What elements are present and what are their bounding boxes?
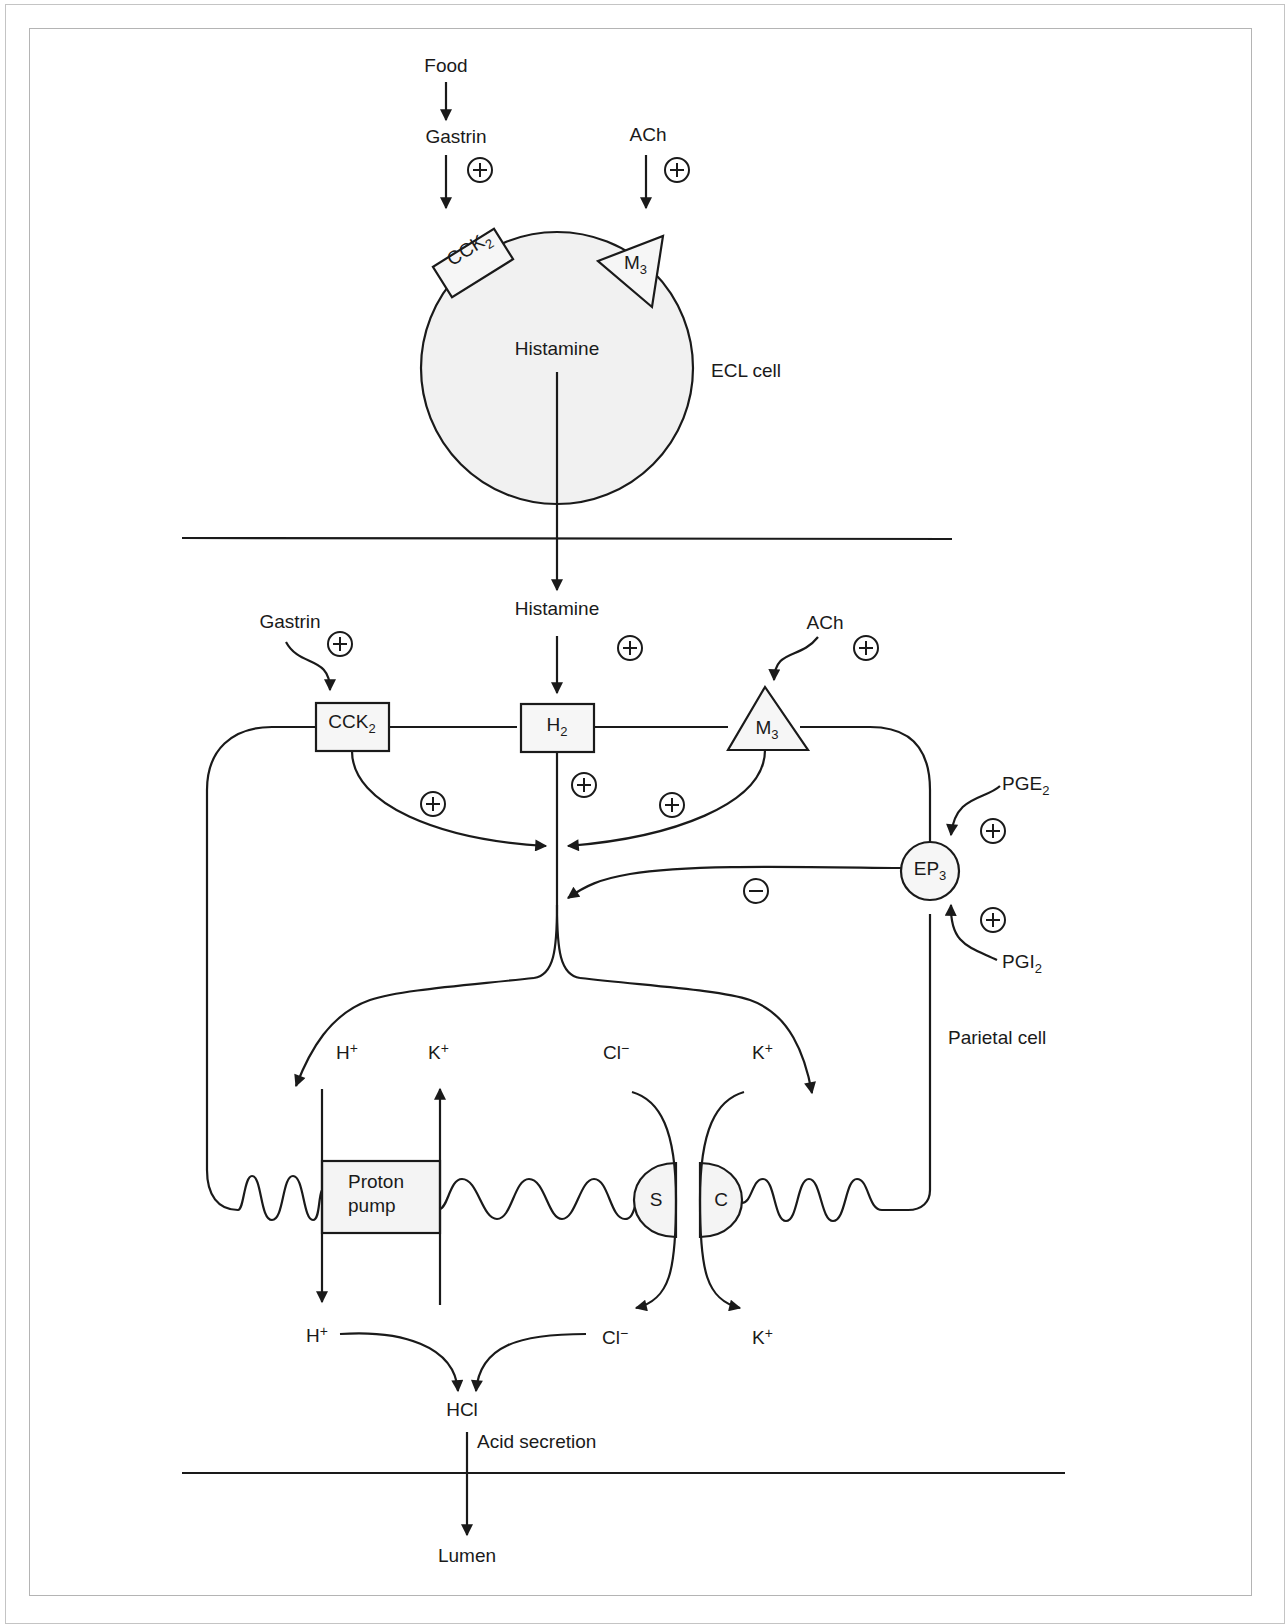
apical-membrane-right bbox=[742, 1179, 882, 1221]
parietal-cell-label: Parietal cell bbox=[948, 1027, 1046, 1049]
parietal-ach-label: ACh bbox=[807, 612, 844, 634]
transporter-c-label: C bbox=[714, 1189, 728, 1211]
plus-sign-icon bbox=[980, 907, 1006, 933]
transporter-s-label: S bbox=[650, 1189, 663, 1211]
ion-cl-top: Cl− bbox=[603, 1042, 629, 1064]
parietal-cck2-label: CCK2 bbox=[328, 711, 375, 733]
ion-h-bottom: H+ bbox=[306, 1325, 328, 1347]
plus-sign-icon bbox=[327, 631, 353, 657]
parietal-gastrin-label: Gastrin bbox=[259, 611, 320, 633]
plus-sign-icon bbox=[617, 635, 643, 661]
ion-cl-bottom: Cl− bbox=[602, 1327, 628, 1349]
plus-sign-icon bbox=[659, 792, 685, 818]
plus-sign-icon bbox=[571, 772, 597, 798]
plus-sign-icon bbox=[980, 818, 1006, 844]
parietal-cell-outline-right bbox=[800, 727, 930, 854]
ecl-gastrin-label: Gastrin bbox=[425, 126, 486, 148]
food-label: Food bbox=[424, 55, 467, 77]
minus-sign-icon bbox=[743, 878, 769, 904]
apical-membrane-middle bbox=[440, 1179, 637, 1219]
parietal-histamine-label: Histamine bbox=[515, 598, 599, 620]
pge2-label: PGE2 bbox=[1002, 773, 1049, 795]
cck2-signal-arrow bbox=[352, 751, 546, 846]
acid-secretion-label: Acid secretion bbox=[477, 1431, 596, 1453]
proton-pump-label: Protonpump bbox=[348, 1170, 404, 1218]
parietal-m3-label: M3 bbox=[755, 717, 778, 739]
gastrin-to-cck2-arrow bbox=[286, 642, 330, 690]
pgi2-label: PGI2 bbox=[1002, 951, 1042, 973]
apical-membrane-left bbox=[238, 1176, 322, 1220]
plus-sign-icon bbox=[467, 157, 493, 183]
parietal-cell-outline-left bbox=[207, 727, 316, 1210]
plus-sign-icon bbox=[664, 157, 690, 183]
ion-k-bottom: K+ bbox=[752, 1327, 773, 1349]
ion-k-top-left: K+ bbox=[428, 1042, 449, 1064]
branch-left-arrow bbox=[296, 978, 534, 1086]
ecl-histamine-label: Histamine bbox=[515, 338, 599, 360]
ecl-ach-label: ACh bbox=[630, 124, 667, 146]
hcl-label: HCl bbox=[446, 1399, 478, 1421]
plus-sign-icon bbox=[853, 635, 879, 661]
branch-right-arrow bbox=[580, 978, 812, 1093]
ion-k-top-right: K+ bbox=[752, 1042, 773, 1064]
ach-to-m3-arrow bbox=[774, 637, 818, 680]
ep3-inhibitory-arrow bbox=[568, 867, 901, 898]
ion-h-top: H+ bbox=[336, 1042, 358, 1064]
cl-to-hcl-arrow bbox=[476, 1334, 586, 1391]
upper-membrane-line bbox=[182, 538, 952, 539]
h-to-hcl-arrow bbox=[340, 1333, 458, 1391]
lumen-label: Lumen bbox=[438, 1545, 496, 1567]
ecl-m3-label: M3 bbox=[624, 252, 647, 274]
plus-sign-icon bbox=[420, 791, 446, 817]
parietal-h2-label: H2 bbox=[547, 714, 568, 736]
ecl-cell-label: ECL cell bbox=[711, 360, 781, 382]
parietal-ep3-label: EP3 bbox=[914, 858, 947, 880]
